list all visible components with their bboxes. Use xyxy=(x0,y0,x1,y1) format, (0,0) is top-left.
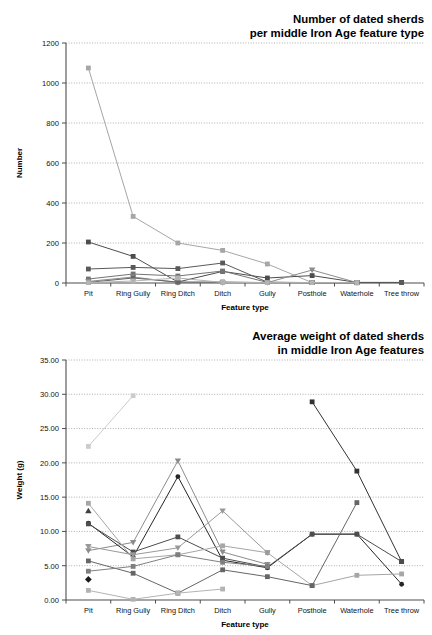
y-tick-label: 30.00 xyxy=(40,390,59,399)
y-tick-label: 600 xyxy=(46,159,59,168)
x-tick-label: Posthole xyxy=(298,606,327,615)
data-series xyxy=(86,521,404,569)
data-series xyxy=(86,552,270,573)
data-series xyxy=(86,474,404,586)
data-point xyxy=(399,280,404,285)
series-line xyxy=(88,589,222,599)
data-point xyxy=(265,280,270,285)
y-tick-label: 20.00 xyxy=(40,459,59,468)
data-point xyxy=(220,560,225,565)
data-point xyxy=(131,279,136,284)
data-point xyxy=(310,273,315,278)
data-point xyxy=(86,444,91,449)
data-point xyxy=(175,552,180,557)
data-series xyxy=(310,399,404,564)
y-axis-title: Weight (g) xyxy=(15,460,24,499)
x-tick-label: Ring Gully xyxy=(116,606,150,615)
data-point xyxy=(399,582,404,587)
data-point xyxy=(220,248,225,253)
x-tick-label: Waterhole xyxy=(340,606,373,615)
y-tick-label: 15.00 xyxy=(40,493,59,502)
data-point xyxy=(220,261,225,266)
data-point xyxy=(399,559,404,564)
data-point xyxy=(175,266,180,271)
data-point xyxy=(354,500,359,505)
x-tick-label: Ring Ditch xyxy=(161,289,195,298)
data-point xyxy=(85,508,91,514)
y-tick-label: 35.00 xyxy=(40,356,59,365)
figure-page: Number of dated sherdsper middle Iron Ag… xyxy=(0,0,432,635)
data-point xyxy=(220,567,225,572)
data-point xyxy=(131,597,136,602)
data-point xyxy=(131,564,136,569)
y-tick-label: 800 xyxy=(46,119,59,128)
sherd-weight-chart: Average weight of dated sherdsin middle … xyxy=(0,317,432,634)
data-point xyxy=(131,265,136,270)
data-point xyxy=(265,276,270,281)
x-tick-label: Pit xyxy=(84,606,93,615)
data-point xyxy=(86,559,91,564)
data-point xyxy=(85,576,92,583)
y-tick-label: 1000 xyxy=(42,79,59,88)
x-tick-label: Gully xyxy=(259,289,276,298)
data-point xyxy=(265,262,270,267)
x-tick-label: Waterhole xyxy=(340,289,373,298)
x-tick-label: Gully xyxy=(259,606,276,615)
y-tick-label: 400 xyxy=(46,199,59,208)
data-point xyxy=(310,280,315,285)
sherd-count-plot: Number of dated sherdsper middle Iron Ag… xyxy=(0,0,432,317)
data-series xyxy=(85,508,91,514)
x-tick-label: Pit xyxy=(84,289,93,298)
data-point xyxy=(220,543,225,548)
data-point xyxy=(354,469,359,474)
sherd-count-chart: Number of dated sherdsper middle Iron Ag… xyxy=(0,0,432,317)
data-point xyxy=(265,564,270,569)
data-point xyxy=(86,280,91,285)
data-point xyxy=(175,591,180,596)
chart-title-line2: per middle Iron Age feature type xyxy=(250,27,424,39)
data-point xyxy=(220,280,225,285)
data-point xyxy=(399,572,404,577)
data-point xyxy=(86,501,91,506)
data-point xyxy=(220,269,225,274)
x-tick-label: Tree throw xyxy=(384,289,420,298)
data-series xyxy=(85,576,92,583)
chart-title-line2: in middle Iron Age features xyxy=(278,344,424,356)
data-point xyxy=(131,214,136,219)
y-tick-label: 25.00 xyxy=(40,424,59,433)
data-point xyxy=(86,240,91,245)
data-point xyxy=(175,276,180,281)
data-point xyxy=(86,521,91,526)
data-point xyxy=(86,267,91,272)
data-point xyxy=(354,573,359,578)
data-point xyxy=(310,399,315,404)
data-point xyxy=(131,571,136,576)
data-point xyxy=(131,254,136,259)
chart-title-line1: Number of dated sherds xyxy=(293,13,424,25)
data-point xyxy=(175,241,180,246)
data-point xyxy=(354,280,359,285)
y-axis-title: Number xyxy=(15,148,24,178)
y-tick-label: 0.00 xyxy=(44,596,59,605)
x-tick-label: Tree throw xyxy=(384,606,420,615)
data-point xyxy=(220,556,225,561)
x-tick-label: Ring Gully xyxy=(116,289,150,298)
data-point xyxy=(310,532,315,537)
data-point xyxy=(86,588,91,593)
x-tick-label: Ditch xyxy=(214,289,231,298)
data-point xyxy=(175,474,180,479)
data-point xyxy=(131,393,136,398)
series-line xyxy=(88,396,133,447)
data-point xyxy=(175,535,180,540)
y-tick-label: 0 xyxy=(55,279,59,288)
data-point xyxy=(310,583,315,588)
x-tick-label: Ditch xyxy=(214,606,231,615)
y-tick-label: 5.00 xyxy=(44,562,59,571)
y-tick-label: 1200 xyxy=(42,39,59,48)
data-point xyxy=(86,66,91,71)
x-tick-label: Posthole xyxy=(298,289,327,298)
y-tick-label: 10.00 xyxy=(40,527,59,536)
sherd-weight-plot: Average weight of dated sherdsin middle … xyxy=(0,317,432,634)
data-point xyxy=(220,587,225,592)
data-point xyxy=(354,532,359,537)
